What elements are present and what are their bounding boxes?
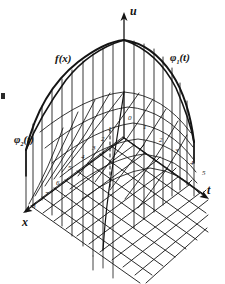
figure-canvas: u t x f(x) φ1(t) φ2(t) 0 1 2 3 4 5 1 2 3… (0, 0, 225, 284)
tick-x-4: 4 (81, 154, 85, 161)
tick-x-5: 5 (68, 165, 72, 172)
tick-x-3: 3 (92, 145, 96, 152)
tick-x-1: 1 (108, 126, 112, 133)
phi1-label: φ1(t) (170, 52, 190, 65)
tick-t-5: 5 (202, 170, 206, 177)
tick-t-4: 4 (190, 160, 194, 167)
t-axis-label: t (207, 184, 210, 196)
x-axis-label: x (22, 216, 28, 228)
base-droppers (93, 250, 113, 278)
phi2-argument: (t) (23, 133, 33, 145)
tick-x-7: 7 (45, 191, 49, 198)
tick-origin: 0 (128, 115, 132, 122)
u-axis-label: u (130, 5, 137, 17)
margin-ink-artifact (1, 93, 5, 99)
t-axis-ticks (140, 145, 206, 194)
tick-t-3: 3 (175, 148, 179, 155)
tick-x-2: 2 (101, 136, 105, 143)
tick-x-8: 8 (32, 203, 36, 210)
phi2-label: φ2(t) (14, 134, 34, 147)
tick-t-2: 2 (159, 137, 163, 144)
tick-t-1: 1 (143, 124, 147, 131)
tick-x-6: 6 (56, 180, 60, 187)
f-of-x-label: f(x) (55, 53, 72, 64)
phi1-argument: (t) (179, 51, 189, 63)
